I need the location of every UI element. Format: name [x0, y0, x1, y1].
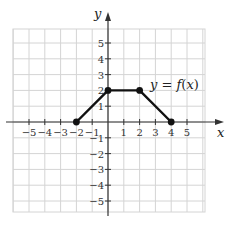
function-graph: −5−4−3−2−11234554321−1−2−3−4−5 x y y = f… [0, 0, 237, 228]
x-tick-label: −3 [53, 127, 68, 138]
data-point-marker [105, 87, 112, 94]
x-tick-label: −4 [37, 127, 52, 138]
x-axis-label: x [217, 125, 225, 140]
data-point-marker [73, 119, 80, 126]
y-axis-label: y [93, 6, 102, 21]
x-tick-label: 2 [136, 127, 142, 138]
x-tick-label: 3 [152, 127, 158, 138]
data-point-marker [136, 87, 143, 94]
y-tick-label: −1 [89, 133, 104, 144]
y-tick-label: 4 [98, 54, 104, 65]
x-tick-label: −2 [69, 127, 84, 138]
x-tick-label: 5 [184, 127, 190, 138]
grid-lines [13, 29, 205, 212]
x-tick-label: −5 [22, 127, 37, 138]
y-tick-label: 5 [98, 38, 104, 49]
y-tick-label: −3 [89, 164, 104, 175]
y-tick-label: 3 [98, 70, 104, 81]
data-point-marker [168, 119, 175, 126]
y-tick-label: 1 [98, 101, 104, 112]
x-tick-label: 1 [121, 127, 127, 138]
x-tick-label: 4 [168, 127, 174, 138]
y-tick-label: −4 [89, 180, 104, 191]
y-tick-label: −5 [89, 196, 104, 207]
function-label: y = f(x) [149, 77, 199, 92]
y-tick-label: −2 [89, 149, 104, 160]
